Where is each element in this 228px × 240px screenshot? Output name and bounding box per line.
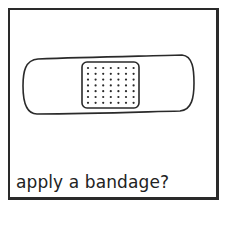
caption-text: apply a bandage? bbox=[16, 172, 169, 192]
pad-dots bbox=[87, 67, 135, 104]
